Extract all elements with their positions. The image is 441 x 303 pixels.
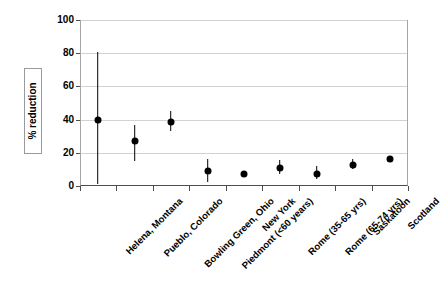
gridline bbox=[81, 86, 407, 87]
data-point-marker bbox=[168, 119, 175, 126]
x-axis-tick-mark bbox=[372, 186, 373, 191]
x-axis-tick-mark bbox=[408, 186, 409, 191]
y-axis-tick-label: 80 bbox=[28, 48, 74, 58]
plot-area bbox=[80, 20, 408, 186]
y-axis-tick-label: 60 bbox=[28, 81, 74, 91]
data-point-marker bbox=[241, 170, 248, 177]
y-axis-tick-labels: 020406080100 bbox=[26, 0, 74, 303]
x-axis-tick-mark bbox=[80, 186, 81, 191]
y-axis-tick-mark bbox=[76, 20, 80, 21]
data-point-marker bbox=[350, 162, 357, 169]
x-axis-tick-mark bbox=[335, 186, 336, 191]
data-point-marker bbox=[95, 116, 102, 123]
gridline bbox=[81, 53, 407, 54]
data-point-marker bbox=[131, 138, 138, 145]
y-axis-tick-mark bbox=[76, 153, 80, 154]
y-axis-tick-mark bbox=[76, 53, 80, 54]
y-axis-tick-label: 100 bbox=[28, 15, 74, 25]
y-axis-tick-mark bbox=[76, 120, 80, 121]
x-axis-tick-mark bbox=[116, 186, 117, 191]
x-axis-tick-mark bbox=[262, 186, 263, 191]
gridline bbox=[81, 20, 407, 21]
y-axis-tick-mark bbox=[76, 86, 80, 87]
data-point-marker bbox=[313, 170, 320, 177]
data-point-marker bbox=[386, 155, 393, 162]
gridline bbox=[81, 153, 407, 154]
data-point-marker bbox=[277, 164, 284, 171]
y-axis-tick-label: 20 bbox=[28, 148, 74, 158]
x-axis-tick-mark bbox=[226, 186, 227, 191]
x-axis-tick-mark bbox=[299, 186, 300, 191]
y-axis-tick-label: 40 bbox=[28, 115, 74, 125]
x-axis-tick-mark bbox=[153, 186, 154, 191]
gridline bbox=[81, 120, 407, 121]
y-axis-tick-label: 0 bbox=[28, 181, 74, 191]
data-point-marker bbox=[204, 168, 211, 175]
x-axis-tick-mark bbox=[189, 186, 190, 191]
